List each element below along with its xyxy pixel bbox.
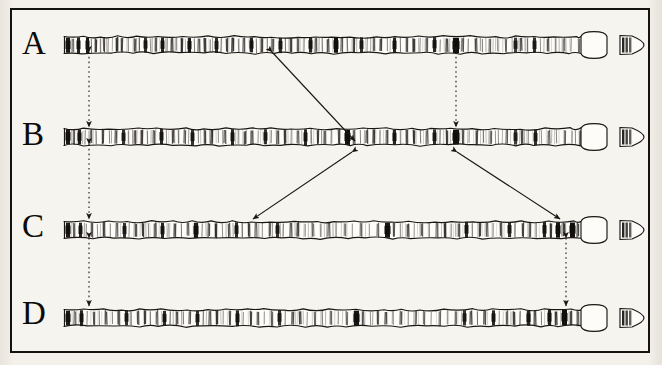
distal-tip-bands [622, 130, 631, 145]
row-label-c: C [22, 210, 44, 243]
distal-tip-bands [622, 223, 631, 238]
chromosome-d [64, 301, 650, 331]
distal-tip-bands [622, 38, 631, 53]
row-label-d: D [22, 297, 46, 330]
row-label-a: A [22, 27, 46, 60]
row-label-b: B [22, 118, 44, 151]
chromosome-a [64, 28, 650, 58]
chromosome-c [64, 213, 650, 243]
terminal-knob [581, 217, 607, 244]
terminal-knob [581, 305, 607, 332]
chromosome-b-drawing [64, 120, 650, 154]
terminal-knob [581, 124, 607, 151]
terminal-knob [581, 32, 607, 59]
chromosome-a-drawing [64, 28, 650, 62]
figure-container: A B C D [0, 0, 662, 365]
chromosome-b [64, 120, 650, 150]
chromosome-d-drawing [64, 301, 650, 335]
distal-tip-bands [622, 311, 631, 326]
chromosome-c-drawing [64, 213, 650, 247]
